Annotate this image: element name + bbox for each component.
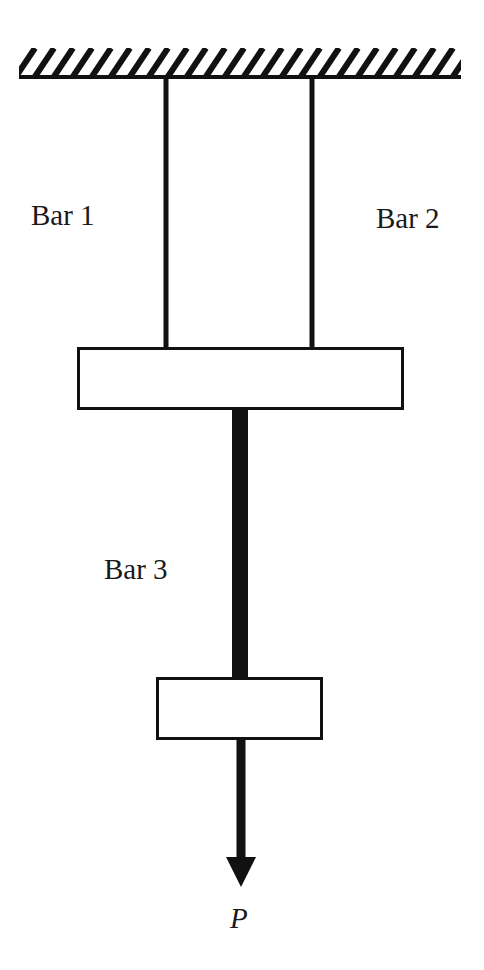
bar-2-label: Bar 2	[376, 204, 440, 233]
bar-assembly-diagram	[0, 0, 484, 970]
fixed-support	[19, 48, 461, 79]
load-label: P	[230, 904, 248, 933]
arrow-shaft	[237, 740, 246, 860]
bar-2	[310, 78, 315, 349]
upper-plate	[79, 349, 403, 409]
bar-1-label: Bar 1	[31, 201, 95, 230]
bar-1	[164, 78, 169, 349]
bar-3-label: Bar 3	[104, 555, 168, 584]
load-arrow	[226, 740, 256, 887]
bar-3	[232, 409, 248, 678]
ceiling-baseline	[19, 75, 461, 79]
lower-plate	[158, 679, 322, 739]
ceiling-hatching	[19, 48, 461, 76]
arrow-head-icon	[226, 857, 256, 887]
